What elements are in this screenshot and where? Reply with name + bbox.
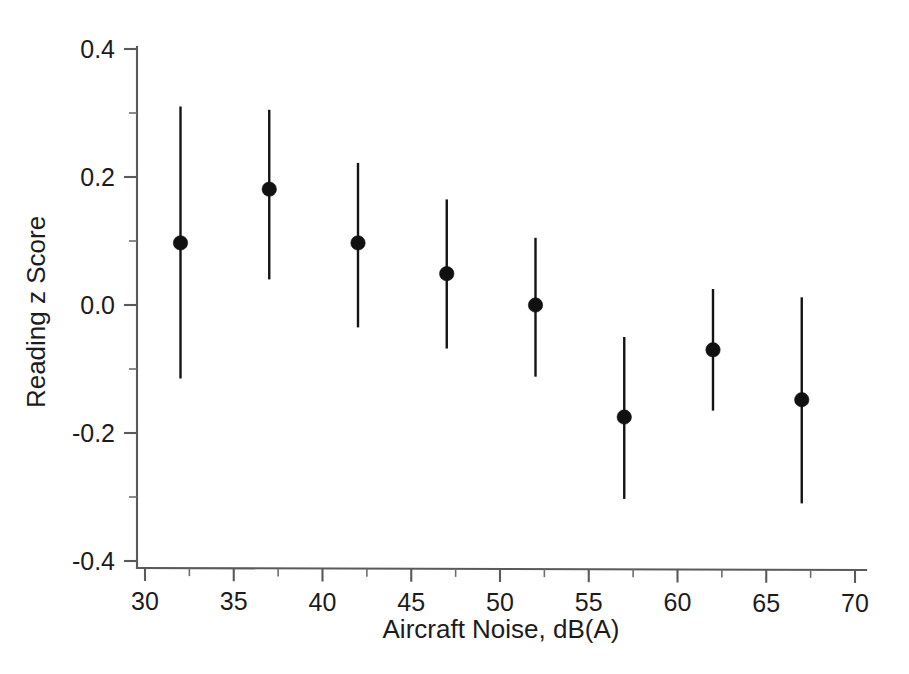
data-point-marker: [617, 410, 631, 424]
y-tick-label: 0.0: [80, 291, 115, 319]
y-tick-label: -0.2: [72, 419, 115, 447]
data-point-marker: [173, 236, 187, 250]
x-tick-label: 55: [575, 588, 603, 616]
x-tick-label: 60: [664, 588, 692, 616]
x-tick-label: 45: [397, 588, 425, 616]
data-point-marker: [528, 298, 542, 312]
chart-figure: -0.4-0.20.00.20.4 303540455055606570 Air…: [0, 0, 909, 674]
x-tick-label: 30: [131, 587, 159, 615]
y-axis-label: Reading z Score: [21, 216, 51, 408]
x-tick-label: 50: [486, 588, 514, 616]
data-point-marker: [440, 266, 454, 280]
data-point-marker: [706, 343, 720, 357]
data-point-marker: [795, 393, 809, 407]
y-tick-label: 0.2: [80, 163, 115, 191]
x-tick-label: 35: [220, 587, 248, 615]
x-tick-label: 70: [841, 589, 869, 617]
y-tick-label: -0.4: [72, 547, 115, 575]
errorbar-plot: -0.4-0.20.00.20.4 303540455055606570 Air…: [0, 0, 909, 674]
x-tick-label: 65: [752, 589, 780, 617]
x-axis-label: Aircraft Noise, dB(A): [383, 614, 620, 644]
y-tick-label: 0.4: [80, 35, 115, 63]
x-tick-label: 40: [309, 588, 337, 616]
data-point-marker: [351, 236, 365, 250]
data-point-marker: [262, 182, 276, 196]
